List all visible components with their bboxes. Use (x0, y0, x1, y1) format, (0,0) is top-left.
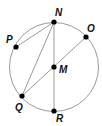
point-n (51, 19, 56, 24)
circle-diagram: NOPMQR (0, 0, 102, 126)
label-r: R (56, 113, 64, 124)
label-o: O (87, 23, 95, 34)
point-o (83, 34, 88, 39)
label-p: P (6, 34, 13, 45)
label-n: N (55, 7, 63, 18)
label-m: M (59, 64, 68, 75)
point-m (51, 64, 56, 69)
label-q: Q (15, 102, 23, 113)
segments (16, 22, 86, 111)
point-p (13, 44, 18, 49)
point-q (19, 93, 24, 98)
